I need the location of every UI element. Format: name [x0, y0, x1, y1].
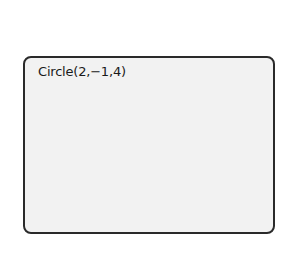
expression-text: Circle(2,−1,4) [38, 64, 126, 79]
calculator-screen: Circle(2,−1,4) [23, 56, 275, 234]
